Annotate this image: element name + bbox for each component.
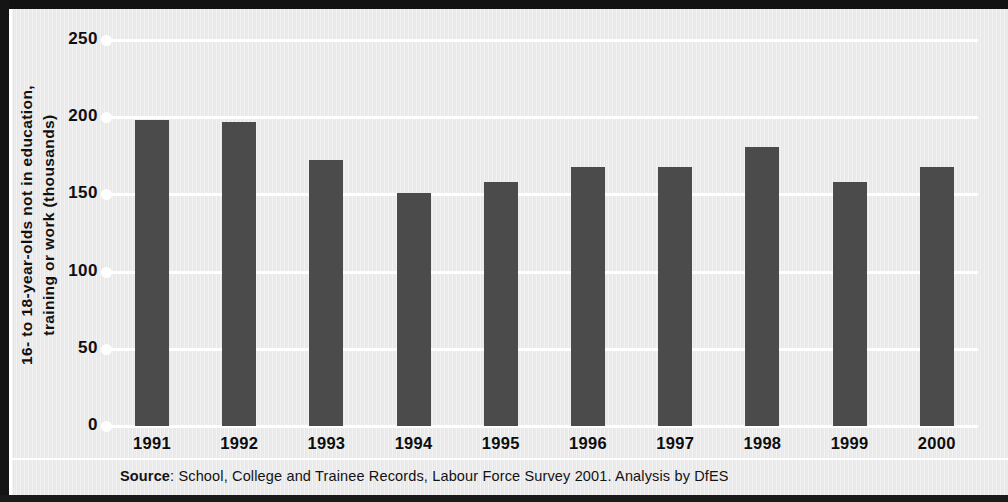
x-tick-1995: 1995	[461, 434, 541, 453]
x-tick-1996: 1996	[548, 434, 628, 453]
bar-1995	[484, 182, 518, 426]
source-note: Source: School, College and Trainee Reco…	[120, 468, 729, 484]
y-axis-tick-labels: 050100150200250	[20, 40, 98, 426]
x-tick-1993: 1993	[286, 434, 366, 453]
source-divider	[12, 458, 1008, 460]
gridline-dot-icon	[101, 344, 112, 355]
x-tick-1994: 1994	[374, 434, 454, 453]
x-tick-1999: 1999	[810, 434, 890, 453]
bar-1994	[397, 193, 431, 426]
y-tick-200: 200	[28, 106, 98, 126]
gridline-dot-icon	[101, 112, 112, 123]
bar-1999	[833, 182, 867, 426]
bar-1997	[658, 167, 692, 426]
figure-bar-chart: 16- to 18-year-olds not in education, tr…	[0, 0, 1008, 502]
source-value: School, College and Trainee Records, Lab…	[178, 468, 728, 484]
x-tick-1998: 1998	[722, 434, 802, 453]
bar-1991	[135, 120, 169, 426]
bar-1992	[222, 122, 256, 426]
left-rule	[0, 0, 9, 502]
gridline-dot-icon	[101, 267, 112, 278]
plot-area	[106, 40, 978, 426]
y-tick-150: 150	[28, 183, 98, 203]
y-tick-0: 0	[28, 415, 98, 435]
y-tick-50: 50	[28, 338, 98, 358]
gridline-200	[106, 116, 978, 119]
top-rule	[0, 0, 1008, 9]
bar-1996	[571, 167, 605, 426]
x-tick-2000: 2000	[897, 434, 977, 453]
gridline-dot-icon	[101, 35, 112, 46]
x-tick-1997: 1997	[635, 434, 715, 453]
bar-2000	[920, 167, 954, 426]
gridline-250	[106, 39, 978, 42]
bar-1993	[309, 160, 343, 426]
gridline-dot-icon	[101, 189, 112, 200]
x-tick-1991: 1991	[112, 434, 192, 453]
gridline-dot-icon	[101, 421, 112, 432]
y-tick-250: 250	[28, 29, 98, 49]
bar-1998	[745, 147, 779, 426]
y-tick-100: 100	[28, 261, 98, 281]
source-label: Source	[120, 468, 170, 484]
x-tick-1992: 1992	[199, 434, 279, 453]
bottom-rule	[0, 495, 1008, 502]
